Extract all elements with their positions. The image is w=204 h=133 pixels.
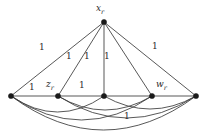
node-label-n4: wr [156,80,167,91]
edge-weight-label: 1 [66,52,72,61]
graph-edge-arc [11,96,196,130]
edge-weight-label: 1 [79,81,85,90]
edge-weight-label: 1 [152,42,158,51]
node-label-n2: zr [46,80,54,91]
node-label-subscript: r [164,84,167,92]
edge-weight-label: 1 [29,83,35,92]
graph-edge [104,22,196,96]
graph-figure: 11111111 xrzrwr [0,0,204,133]
graph-edge [104,22,152,96]
edge-weight-label: 1 [39,43,45,52]
graph-canvas [0,0,204,133]
curved-edges-group [11,96,196,130]
graph-edge [11,22,104,96]
graph-node [101,93,106,98]
node-label-subscript: r [51,84,54,92]
graph-node [149,93,154,98]
node-label-apex: xr [96,4,104,15]
graph-node [101,19,106,24]
edge-weight-label: 1 [84,52,90,61]
node-label-base: w [156,79,164,89]
graph-node [55,93,60,98]
graph-node [8,93,13,98]
graph-node [193,93,198,98]
edge-weight-label: 1 [104,52,110,61]
node-label-subscript: r [101,8,104,16]
edge-weight-label: 1 [124,112,130,121]
